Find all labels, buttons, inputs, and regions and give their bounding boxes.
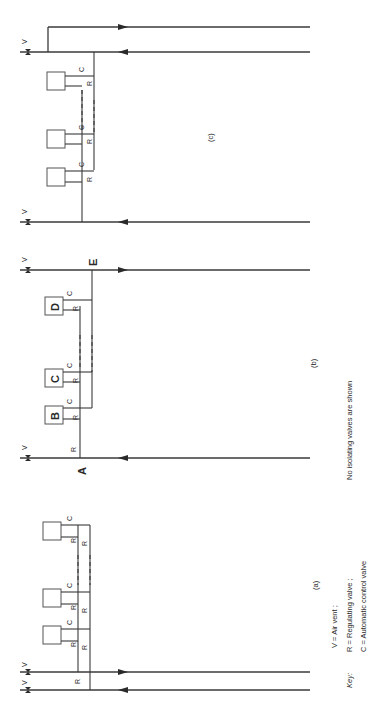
svg-text:R: R [81,645,88,650]
key-title: Key: [345,673,354,688]
svg-text:V: V [21,680,28,685]
svg-text:V: V [21,662,28,667]
svg-text:C: C [66,399,73,404]
panel-c: V V C R C R C R (c) [20,24,310,225]
svg-text:R: R [70,538,77,543]
svg-text:C: C [66,291,73,296]
svg-text:V: V [21,209,28,214]
label-e: E [87,259,99,266]
label-c: C [49,375,61,383]
svg-text:C: C [66,620,73,625]
svg-text:R: R [86,177,93,182]
terminal-unit [43,589,61,607]
label-a: A [76,467,88,475]
svg-text:C: C [66,516,73,521]
key-air-vent: V = Air vent ; [330,605,339,648]
svg-text:R: R [70,447,77,452]
terminal-unit [47,130,65,148]
svg-text:R: R [72,415,79,420]
key-regulating-valve: R = Regulating valve ; [345,578,354,652]
svg-text:R: R [86,139,93,144]
svg-text:V: V [21,39,28,44]
key-control-valve: C = Automatic control valve [359,561,368,652]
pipework-diagram: V V C R C R C R (c) V V [0,0,382,719]
svg-text:R: R [74,679,81,684]
svg-text:C: C [78,162,85,167]
panel-b: V V D C B C R C R C R R E A (b) No isola… [20,257,354,480]
svg-text:V: V [21,445,28,450]
svg-text:V: V [21,257,28,262]
svg-text:R: R [81,541,88,546]
svg-text:R: R [70,605,77,610]
svg-text:C: C [66,583,73,588]
svg-text:C: C [78,125,85,130]
terminal-unit [43,522,61,540]
svg-text:C: C [66,363,73,368]
svg-text:R: R [72,306,79,311]
label-d: D [49,303,61,311]
isolating-note: No isolating valves are shown [345,381,354,480]
svg-text:R: R [81,608,88,613]
svg-text:R: R [72,378,79,383]
terminal-unit [43,626,61,644]
terminal-unit [47,168,65,186]
svg-text:R: R [86,81,93,86]
key-legend: Key: V = Air vent ; R = Regulating valve… [330,561,368,688]
panel-a: V V R C C C R R R R R R (a) [20,516,320,693]
label-b: B [49,412,61,420]
terminal-unit [47,72,65,90]
svg-text:C: C [78,67,85,72]
svg-text:R: R [70,642,77,647]
caption-a: (a) [311,580,320,590]
caption-b: (b) [309,358,318,368]
